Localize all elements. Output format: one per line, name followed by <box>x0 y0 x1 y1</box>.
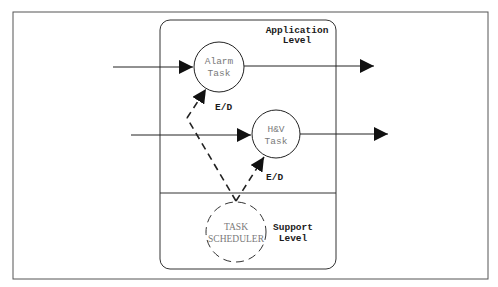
task-scheduler-label-2: SCHEDULER <box>208 234 265 244</box>
alarm-enable-line <box>187 118 236 201</box>
task-scheduler-label-1: TASK <box>224 222 248 232</box>
task-scheduler-node <box>206 202 266 262</box>
hv-ed-label: E/D <box>266 172 283 183</box>
support-level-label-2: Level <box>279 233 308 244</box>
hv-task-label-1: H&V <box>267 124 284 135</box>
alarm-task-label-1: Alarm <box>205 56 234 67</box>
hv-task-label-2: Task <box>265 136 288 147</box>
alarm-ed-label: E/D <box>215 102 232 113</box>
hv-enable-arrow <box>236 157 264 201</box>
alarm-task-label-2: Task <box>208 68 231 79</box>
scheduler-diagram: Application Level Support Level Alarm Ta… <box>0 0 498 287</box>
alarm-task-node <box>194 42 244 92</box>
application-level-label-2: Level <box>283 35 312 46</box>
support-level-label-1: Support <box>273 222 313 233</box>
alarm-enable-arrow <box>187 89 206 118</box>
